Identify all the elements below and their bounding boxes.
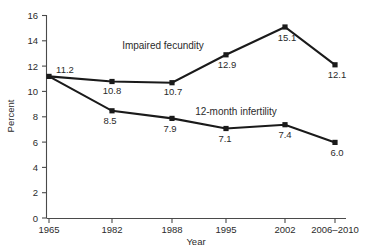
line-chart: 16 14 12 10 8 6 4 2 0 1965 1982 1988 199… [0,0,375,248]
infertility-line [49,76,335,142]
data-point-label: 8.5 [103,115,116,126]
data-point-marker [169,116,174,121]
series-12-month-infertility [49,76,338,145]
data-point-label: 7.1 [218,133,231,144]
y-tick-label: 12 [27,61,38,72]
data-point-label: 10.8 [103,85,122,96]
y-tick-label: 4 [33,162,38,173]
x-tick-label: 1982 [101,224,122,235]
y-axis-title: Percent [5,99,16,132]
data-point-label: 7.4 [278,129,291,140]
x-tick-label: 1995 [215,224,236,235]
data-point-label: 7.9 [163,123,176,134]
y-tick-label: 14 [27,35,38,46]
data-point-marker [282,24,287,29]
data-point-marker [109,79,114,84]
y-tick-label: 8 [33,111,38,122]
y-tick-label: 6 [33,137,38,148]
infertility-value-labels: 8.5 7.9 7.1 7.4 6.0 [103,115,343,158]
data-point-marker [282,122,287,127]
data-point-marker [332,62,337,67]
series-label-impaired-fecundity: Impaired fecundity [122,40,204,51]
data-point-marker [223,52,228,57]
data-point-label: 6.0 [330,147,343,158]
y-tick-label: 0 [33,213,38,224]
y-tick-label: 16 [27,10,38,21]
x-axis-title: Year [186,236,205,247]
data-point-marker [223,126,228,131]
data-point-label: 12.1 [328,69,347,80]
x-tick-label: 2002 [274,224,295,235]
y-tick-label: 10 [27,86,38,97]
data-point-label: 12.9 [218,59,237,70]
y-axis-ticks [42,16,47,219]
x-tick-label: 2006–2010 [311,224,359,235]
x-axis-tick-labels: 1965 1982 1988 1995 2002 2006–2010 [38,224,358,235]
data-point-label: 10.7 [164,86,183,97]
data-point-label: 11.2 [56,64,74,75]
y-axis-tick-labels: 16 14 12 10 8 6 4 2 0 [27,10,38,224]
x-tick-label: 1988 [161,224,182,235]
chart-container: 16 14 12 10 8 6 4 2 0 1965 1982 1988 199… [0,0,375,248]
x-tick-label: 1965 [38,224,59,235]
series-label-12-month-infertility: 12-month infertility [195,106,277,117]
data-point-label: 15.1 [278,32,297,43]
data-point-marker [332,140,337,145]
y-tick-label: 2 [33,187,38,198]
data-point-marker [169,80,174,85]
data-point-marker [109,108,114,113]
x-axis-ticks [49,219,335,224]
